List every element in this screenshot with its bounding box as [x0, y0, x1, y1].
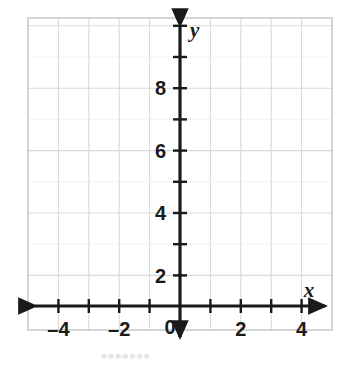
x-tick-label-neg2: –2: [108, 318, 130, 340]
origin-label: 0: [164, 316, 175, 338]
coordinate-plane-figure: ••••••••• •••••••• •••••••: [0, 0, 356, 370]
y-tick-label-6: 6: [155, 140, 166, 162]
x-tick-label-2: 2: [235, 318, 246, 340]
y-tick-label-2: 2: [155, 265, 166, 287]
coordinate-plane-svg: –4 –2 0 2 4 2 4 6 8 y x: [0, 0, 356, 370]
x-tick-label-4: 4: [296, 318, 308, 340]
y-tick-label-4: 4: [155, 202, 167, 224]
x-tick-label-neg4: –4: [47, 318, 70, 340]
x-axis-name-label: x: [303, 278, 315, 302]
y-tick-label-8: 8: [155, 77, 166, 99]
